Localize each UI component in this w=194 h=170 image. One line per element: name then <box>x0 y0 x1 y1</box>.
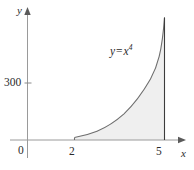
figure-container: 300 0 2 5 y x y=x4 <box>0 0 194 170</box>
equation-operator: = <box>115 45 124 57</box>
y-axis-arrow-icon <box>24 7 30 15</box>
curve-equation-label: y=x4 <box>110 44 132 57</box>
x-tick-label-5: 5 <box>156 146 162 158</box>
plot-canvas <box>0 0 194 170</box>
x-axis-label: x <box>181 148 186 159</box>
y-tick-label-300: 300 <box>4 77 21 89</box>
equation-exponent: 4 <box>129 43 133 52</box>
x-tick-label-2: 2 <box>69 146 75 158</box>
origin-label: 0 <box>18 145 24 157</box>
x-axis-arrow-icon <box>178 137 186 144</box>
y-axis-label: y <box>17 5 22 16</box>
